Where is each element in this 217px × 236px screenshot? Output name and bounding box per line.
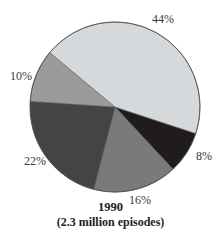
chart-title: 1990	[2, 200, 217, 215]
slice-label-10-percent: 10%	[10, 69, 32, 83]
chart-subtitle: (2.3 million episodes)	[2, 215, 217, 230]
slice-label-22-percent: 22%	[24, 154, 46, 168]
pie-slices	[30, 22, 200, 192]
slice-label-44-percent: 44%	[152, 12, 174, 26]
slice-label-8-percent: 8%	[196, 149, 212, 163]
